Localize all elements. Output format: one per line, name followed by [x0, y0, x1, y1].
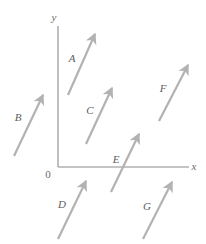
vector-label-f: F: [159, 82, 167, 94]
vector-d: D: [57, 181, 86, 239]
vector-label-e: E: [112, 153, 120, 165]
vector-label-g: G: [143, 200, 151, 212]
vector-e: E: [111, 134, 139, 192]
x-axis-label: x: [191, 160, 197, 172]
vector-a: A: [68, 34, 95, 95]
vector-arrow-a: [68, 34, 95, 95]
vector-diagram-canvas: yx0 ABCDEFG: [0, 0, 206, 244]
vector-label-a: A: [68, 52, 76, 64]
vector-arrow-b: [14, 95, 43, 156]
vector-arrow-c: [86, 88, 112, 144]
vector-g: G: [143, 182, 172, 239]
vector-diagram-figure: yx0 ABCDEFG: [0, 0, 206, 244]
vector-f: F: [159, 65, 188, 121]
axes-group: yx0: [45, 11, 196, 180]
vector-label-d: D: [57, 198, 66, 210]
y-axis-label: y: [51, 11, 57, 23]
vector-label-c: C: [86, 104, 94, 116]
vector-c: C: [86, 88, 112, 144]
vectors-group: ABCDEFG: [14, 34, 188, 239]
vector-b: B: [14, 95, 43, 156]
vector-label-b: B: [15, 111, 22, 123]
origin-label: 0: [45, 168, 51, 180]
vector-arrow-d: [58, 181, 86, 239]
